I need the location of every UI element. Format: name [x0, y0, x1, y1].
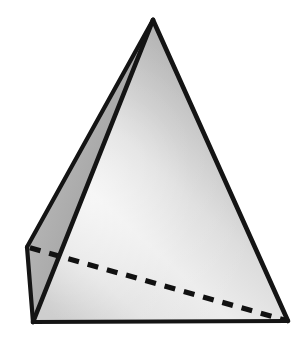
pyramid-diagram: Triangular pyramid (tetrahedron) line dr…	[0, 0, 305, 344]
front-base-edge	[33, 321, 288, 322]
figure-canvas: Triangular pyramid (tetrahedron) line dr…	[0, 0, 305, 344]
